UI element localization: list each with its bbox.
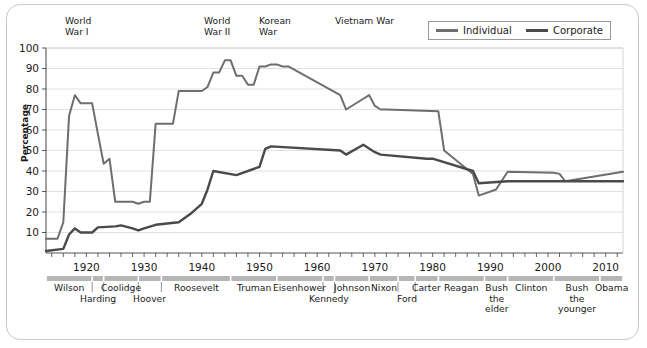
president-label: Coolidge xyxy=(101,283,141,294)
president-label: Clinton xyxy=(515,283,547,294)
annotation-world-war-i: World War I xyxy=(65,16,91,37)
president-label-line: Truman xyxy=(237,282,271,293)
president-label: Reagan xyxy=(444,283,479,294)
president-label-line: the xyxy=(569,293,584,304)
president-label: Harding xyxy=(80,294,116,305)
president-label: Roosevelt xyxy=(174,283,219,294)
president-bar xyxy=(335,276,368,281)
president-label-line: Reagan xyxy=(444,282,479,293)
annotation-wwii-line1: World xyxy=(204,15,230,26)
president-bar xyxy=(231,276,276,281)
y-tick-label: 20 xyxy=(26,206,39,218)
x-tick-label: 2010 xyxy=(592,261,619,273)
x-tick-label: 1980 xyxy=(419,261,446,273)
annotation-wwi-line1: World xyxy=(65,15,91,26)
annotation-korean-line2: War xyxy=(259,26,277,37)
president-label-line: Hoover xyxy=(133,293,166,304)
president-bar xyxy=(485,276,506,281)
president-label: Obama xyxy=(595,283,628,294)
president-label: Kennedy xyxy=(309,294,349,305)
president-label-line: Harding xyxy=(80,293,116,304)
president-label-line: Wilson xyxy=(54,282,84,293)
president-bar xyxy=(416,276,437,281)
legend-item-individual[interactable]: Individual xyxy=(436,25,512,36)
x-tick-label: 1920 xyxy=(73,261,100,273)
x-tick-label: 1940 xyxy=(188,261,215,273)
president-label-line: Obama xyxy=(595,282,628,293)
legend-swatch-individual-icon xyxy=(436,29,458,31)
president-bar xyxy=(555,276,600,281)
president-label: Carter xyxy=(412,283,441,294)
legend-item-corporate[interactable]: Corporate xyxy=(526,25,603,36)
y-tick-label: 80 xyxy=(26,83,39,95)
president-label: Hoover xyxy=(133,294,166,305)
president-label: Wilson xyxy=(54,283,84,294)
president-bar xyxy=(105,276,138,281)
legend-swatch-corporate-icon xyxy=(526,29,548,33)
series-line-corporate xyxy=(46,145,623,251)
annotation-wwii-line2: War II xyxy=(204,26,230,37)
president-label: Bushtheelder xyxy=(485,283,508,315)
president-bar xyxy=(399,276,415,281)
y-tick-label: 40 xyxy=(26,165,39,177)
x-tick-label: 1950 xyxy=(246,261,273,273)
president-label-line: Clinton xyxy=(515,282,547,293)
president-label-line: elder xyxy=(485,303,508,314)
president-bar xyxy=(278,276,323,281)
president-label-line: Bush xyxy=(566,282,589,293)
x-axis-ticks: 1920193019401950196019701980199020002010 xyxy=(52,253,619,273)
president-label: Eisenhower xyxy=(273,283,326,294)
annotation-korean-war: Korean War xyxy=(259,16,291,37)
president-bar xyxy=(139,276,160,281)
y-tick-label: 10 xyxy=(26,226,39,238)
x-tick-label: 1960 xyxy=(304,261,331,273)
annotation-wwi-line2: War I xyxy=(65,26,89,37)
chart-screenshot: 102030405060708090100 192019301940195019… xyxy=(0,0,647,348)
president-bar xyxy=(93,276,103,281)
legend-label-corporate: Corporate xyxy=(553,25,603,36)
president-bar xyxy=(601,276,622,281)
annotation-world-war-ii: World War II xyxy=(204,16,230,37)
y-tick-label: 90 xyxy=(26,62,39,74)
president-label-line: Carter xyxy=(412,282,441,293)
annotation-korean-line1: Korean xyxy=(259,15,291,26)
president-label: Truman xyxy=(237,283,271,294)
x-tick-label: 1930 xyxy=(131,261,158,273)
president-label-line: Bush xyxy=(485,282,508,293)
president-bar xyxy=(162,276,230,281)
president-label: Johnson xyxy=(334,283,370,294)
annotation-vietnam-label: Vietnam War xyxy=(335,15,394,26)
president-label-line: younger xyxy=(558,303,596,314)
gridlines xyxy=(46,48,623,233)
y-tick-label: 30 xyxy=(26,185,39,197)
president-label-line: Roosevelt xyxy=(174,282,219,293)
president-label: Ford xyxy=(397,294,417,305)
president-bar xyxy=(47,276,92,281)
president-label-line: Johnson xyxy=(334,282,370,293)
y-axis-title: Percentage xyxy=(20,104,30,162)
x-tick-label: 1990 xyxy=(477,261,504,273)
president-label-line: Ford xyxy=(397,293,417,304)
president-label-line: Eisenhower xyxy=(273,282,326,293)
chart-legend[interactable]: Individual Corporate xyxy=(428,21,611,40)
president-bar xyxy=(439,276,484,281)
annotation-vietnam-war: Vietnam War xyxy=(335,16,394,27)
president-bar xyxy=(508,276,553,281)
president-label-line: Nixon xyxy=(371,282,397,293)
president-bar xyxy=(324,276,334,281)
legend-label-individual: Individual xyxy=(463,25,512,36)
president-label-line: Kennedy xyxy=(309,293,349,304)
y-tick-label: 100 xyxy=(19,42,39,54)
x-tick-label: 2000 xyxy=(535,261,562,273)
president-bar xyxy=(370,276,397,281)
president-label-line: Coolidge xyxy=(101,282,141,293)
x-tick-label: 1970 xyxy=(362,261,389,273)
president-label: Nixon xyxy=(371,283,397,294)
president-label-line: the xyxy=(489,293,504,304)
president-label: Bushtheyounger xyxy=(558,283,596,315)
